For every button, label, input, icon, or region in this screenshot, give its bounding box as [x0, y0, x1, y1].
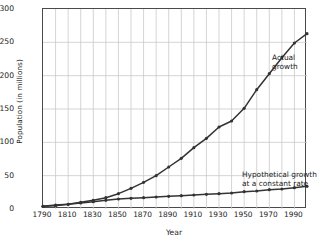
data-point — [268, 72, 271, 75]
population-growth-chart: Population (in millions) 050100150200250… — [0, 0, 322, 243]
data-point — [142, 181, 145, 184]
data-point — [217, 125, 220, 128]
data-point — [79, 201, 82, 204]
data-point — [54, 203, 57, 206]
y-tick-label: 200 — [0, 70, 14, 79]
data-point — [243, 107, 246, 110]
annotation-actual-growth: Actual growth — [272, 53, 298, 71]
data-point — [243, 190, 246, 193]
y-tick-label: 0 — [0, 204, 14, 213]
annotation-hypothetical-growth: Hypothetical growth at a constant rate — [242, 170, 317, 188]
data-point — [117, 192, 120, 195]
data-point — [117, 197, 120, 200]
y-tick-label: 150 — [0, 104, 14, 113]
data-point — [230, 191, 233, 194]
plot-area: Actual growth Hypothetical growth at a c… — [42, 8, 306, 208]
data-point — [217, 192, 220, 195]
data-point — [155, 195, 158, 198]
annotation-actual-growth-line1: Actual — [272, 53, 298, 62]
data-point — [192, 193, 195, 196]
data-point — [167, 195, 170, 198]
data-point — [180, 157, 183, 160]
data-point — [255, 88, 258, 91]
y-tick-label: 250 — [0, 37, 14, 46]
data-point — [293, 41, 296, 44]
data-point — [180, 194, 183, 197]
data-point — [268, 188, 271, 191]
annotation-hypothetical-growth-line1: Hypothetical growth — [242, 170, 317, 179]
data-point — [92, 200, 95, 203]
x-axis-title: Year — [42, 228, 306, 237]
data-point — [41, 205, 44, 208]
y-tick-label: 50 — [0, 170, 14, 179]
data-point — [192, 146, 195, 149]
data-point — [305, 32, 308, 35]
data-point — [142, 196, 145, 199]
data-point — [255, 189, 258, 192]
data-point — [129, 197, 132, 200]
series-line-2 — [43, 186, 307, 206]
data-point — [205, 193, 208, 196]
data-point — [205, 137, 208, 140]
data-point — [155, 174, 158, 177]
y-tick-label: 100 — [0, 137, 14, 146]
y-tick-label: 300 — [0, 4, 14, 13]
data-point — [230, 119, 233, 122]
data-point — [67, 203, 70, 206]
data-point — [129, 187, 132, 190]
data-point — [104, 199, 107, 202]
data-point — [167, 165, 170, 168]
annotation-hypothetical-growth-line2: at a constant rate — [242, 179, 317, 188]
x-tick-label: 1990 — [273, 210, 313, 219]
annotation-actual-growth-line2: growth — [272, 62, 298, 71]
data-point — [104, 196, 107, 199]
